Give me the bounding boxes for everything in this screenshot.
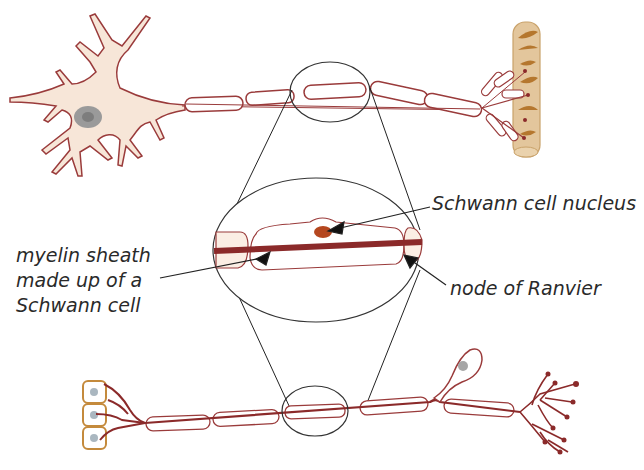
myelinated-axon-bottom (145, 397, 520, 431)
label-myelin-line1: myelin sheath (16, 243, 151, 267)
label-node-of-ranvier: node of Ranvier (450, 276, 601, 300)
sensory-cell-body (434, 349, 482, 402)
label-myelin-line2: made up of a (16, 268, 142, 292)
myelinated-axon-top (182, 80, 483, 118)
axon-terminals-bottom (520, 374, 575, 452)
magnified-view (213, 88, 422, 408)
neuron-diagram: Schwann cell nucleus node of Ranvier mye… (0, 0, 644, 470)
label-schwann-cell-nucleus: Schwann cell nucleus (432, 191, 636, 215)
label-myelin-line3: Schwann cell (16, 293, 141, 317)
motor-neuron-cell-body (10, 14, 185, 176)
